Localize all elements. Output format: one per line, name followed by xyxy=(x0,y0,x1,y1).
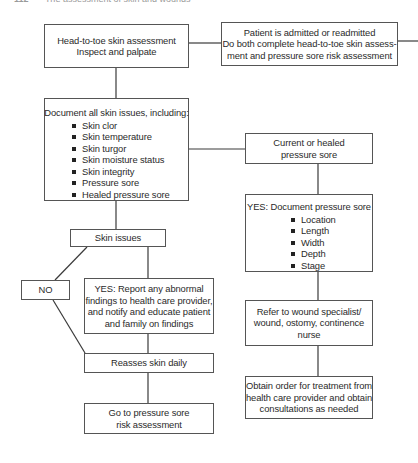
list-item-label: Depth xyxy=(301,248,326,259)
bullet-icon xyxy=(291,241,295,245)
bullet-icon xyxy=(72,135,76,139)
box-text: Reasses skin daily xyxy=(111,357,187,369)
list-item: Width xyxy=(289,237,336,249)
box-text: and notify and educate patient xyxy=(88,306,211,318)
list-item-label: Pressure sore xyxy=(82,177,139,188)
box-text: nurse xyxy=(298,329,321,341)
list-item-label: Skin integrity xyxy=(82,166,134,177)
box-text: ment and pressure sore risk assessment xyxy=(227,50,392,62)
list-item-label: Length xyxy=(301,225,329,236)
connector-no-to-reasses xyxy=(53,300,85,353)
list-item: Skin clor xyxy=(70,120,170,132)
bullet-icon xyxy=(72,147,76,151)
box-text: Head-to-toe skin assessment xyxy=(57,35,176,47)
document-skin-issues-box: Document all skin issues, including: Ski… xyxy=(44,98,189,201)
skin-issues-list: Skin clor Skin temperature Skin turgor S… xyxy=(70,120,170,201)
pressure-sore-attributes-list: Location Length Width Depth Stage xyxy=(289,214,336,272)
bullet-icon xyxy=(291,252,295,256)
box-text: Obtain order for treatment from xyxy=(246,380,372,392)
yes-document-pressure-sore-box: YES: Document pressure sore Location Len… xyxy=(245,194,373,272)
list-item-label: Stage xyxy=(301,260,325,271)
bullet-icon xyxy=(72,181,76,185)
box-text: Skin issues xyxy=(95,232,141,244)
box-text: risk assessment xyxy=(116,419,182,431)
bullet-icon xyxy=(72,158,76,162)
list-item: Skin temperature xyxy=(70,131,170,143)
list-item: Skin moisture status xyxy=(70,154,170,166)
list-item-label: Skin temperature xyxy=(82,131,152,142)
go-to-risk-assessment-box: Go to pressure sore risk assessment xyxy=(84,403,214,434)
yes-report-findings-box: YES: Report any abnormal findings to hea… xyxy=(84,278,214,334)
box-text: Patient is admitted or readmitted xyxy=(244,27,376,39)
bullet-icon xyxy=(72,193,76,197)
box-title: YES: Document pressure sore xyxy=(247,201,371,213)
box-text: NO xyxy=(39,284,53,296)
box-text: Go to pressure sore xyxy=(109,407,190,419)
box-text: Refer to wound specialist/ xyxy=(257,306,362,318)
bullet-icon xyxy=(291,229,295,233)
box-text: pressure sore xyxy=(281,149,337,161)
bullet-icon xyxy=(291,264,295,268)
list-item: Pressure sore xyxy=(70,177,170,189)
list-item: Depth xyxy=(289,248,336,260)
head-to-toe-assessment-box: Head-to-toe skin assessment Inspect and … xyxy=(44,24,189,68)
list-item: Location xyxy=(289,214,336,226)
box-text: Current or healed xyxy=(273,137,344,149)
box-text: Inspect and palpate xyxy=(77,46,157,58)
list-item: Skin integrity xyxy=(70,166,170,178)
list-item-label: Skin clor xyxy=(82,120,117,131)
list-item: Healed pressure sore xyxy=(70,189,170,201)
no-box: NO xyxy=(21,280,70,300)
box-text: findings to health care provider, xyxy=(86,295,213,307)
list-item: Length xyxy=(289,225,336,237)
skin-issues-box: Skin issues xyxy=(70,229,166,247)
patient-admitted-box: Patient is admitted or readmitted Do bot… xyxy=(221,22,398,66)
list-item-label: Skin moisture status xyxy=(82,154,164,165)
list-item: Skin turgor xyxy=(70,143,170,155)
connector-skin-issues-to-no xyxy=(55,247,87,280)
box-text: wound, ostomy, continence xyxy=(254,317,364,329)
obtain-order-box: Obtain order for treatment from health c… xyxy=(245,376,373,419)
box-text: health care provider and obtain xyxy=(246,392,372,404)
box-text: YES: Report any abnormal xyxy=(94,283,203,295)
current-or-healed-pressure-sore-box: Current or healed pressure sore xyxy=(245,133,373,164)
bullet-icon xyxy=(72,170,76,174)
reasses-skin-daily-box: Reasses skin daily xyxy=(84,353,214,373)
list-item-label: Skin turgor xyxy=(82,143,126,154)
refer-wound-specialist-box: Refer to wound specialist/ wound, ostomy… xyxy=(245,300,373,346)
box-title: Document all skin issues, including: xyxy=(44,107,188,119)
bullet-icon xyxy=(72,124,76,128)
list-item-label: Location xyxy=(301,214,336,225)
bullet-icon xyxy=(291,218,295,222)
box-text: consultations as needed xyxy=(260,403,359,415)
list-item-label: Width xyxy=(301,237,324,248)
list-item: Stage xyxy=(289,260,336,272)
box-text: and family on findings xyxy=(105,318,193,330)
list-item-label: Healed pressure sore xyxy=(82,189,170,200)
box-text: Do both complete head-to-toe skin assess… xyxy=(222,38,396,50)
